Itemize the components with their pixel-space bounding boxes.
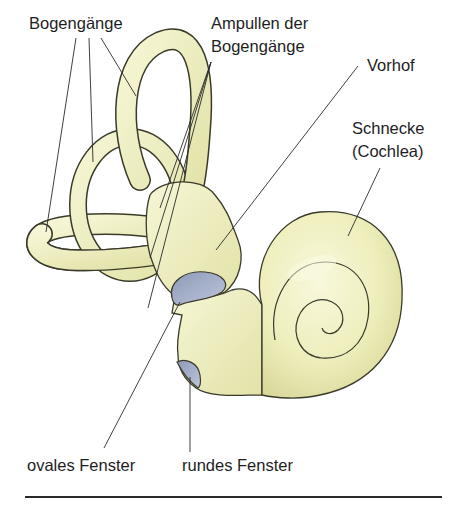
label-schnecke-line2: (Cochlea) bbox=[352, 141, 424, 161]
inner-ear-illustration bbox=[0, 0, 456, 505]
label-vorhof: Vorhof bbox=[367, 55, 415, 75]
bottom-divider bbox=[25, 496, 442, 498]
leader-bogengaenge-2 bbox=[89, 38, 93, 162]
label-ampullen-line1: Ampullen der bbox=[211, 13, 308, 33]
cochlea bbox=[259, 212, 402, 398]
inner-ear-diagram: Bogengänge Ampullen der Bogengänge Vorho… bbox=[0, 0, 456, 505]
label-rundes-fenster: rundes Fenster bbox=[182, 455, 293, 475]
anterior-semicircular-canal bbox=[126, 39, 201, 200]
label-ovales-fenster: ovales Fenster bbox=[27, 455, 135, 475]
label-schnecke-line1: Schnecke bbox=[352, 118, 424, 138]
cochlea-base bbox=[172, 289, 262, 396]
label-ampullen-line2: Bogengänge bbox=[211, 36, 305, 56]
leader-ovales-fenster bbox=[104, 302, 180, 448]
label-bogengaenge: Bogengänge bbox=[29, 13, 123, 33]
